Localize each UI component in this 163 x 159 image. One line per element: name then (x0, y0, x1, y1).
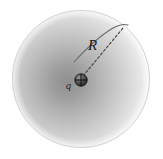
physics-figure: R q (0, 0, 163, 159)
figure-container: R q (0, 0, 163, 159)
charge-label: q (66, 80, 71, 91)
radius-label: R (87, 37, 97, 53)
